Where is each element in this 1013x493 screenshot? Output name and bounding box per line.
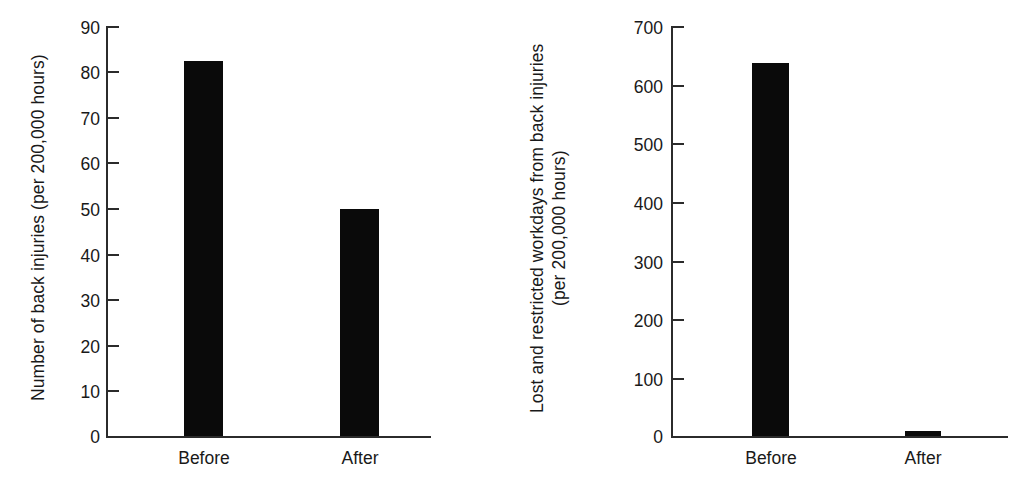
y-tick-600-right	[673, 85, 684, 87]
y-tick-60-left	[108, 162, 119, 164]
x-axis-line-right	[671, 436, 1008, 438]
y-tick-10-left	[108, 390, 119, 392]
bar-before-back-injuries	[184, 61, 223, 436]
y-tick-label-left-2: 70	[56, 109, 100, 130]
bar-after-back-injuries	[340, 209, 379, 436]
y-tick-80-left	[108, 71, 119, 73]
y-tick-50-left	[108, 208, 119, 210]
y-axis-line-left	[106, 26, 108, 438]
y-tick-label-right-6: 100	[606, 370, 663, 391]
x-tick-label-left-after: After	[342, 448, 379, 469]
y-tick-500-right	[673, 143, 684, 145]
y-tick-label-right-1: 600	[606, 77, 663, 98]
y-tick-700-right	[673, 26, 684, 28]
plot-area-right: 700 600 500 400 300 200 100 0 Before Aft…	[506, 0, 1013, 493]
y-tick-label-right-5: 200	[606, 311, 663, 332]
y-tick-label-left-4: 50	[56, 200, 100, 221]
y-tick-label-right-2: 500	[606, 135, 663, 156]
bar-before-lost-workdays	[752, 63, 789, 436]
y-tick-20-left	[108, 345, 119, 347]
bar-after-lost-workdays	[905, 431, 941, 436]
y-tick-label-right-3: 400	[606, 194, 663, 215]
y-tick-label-right-0: 700	[606, 18, 663, 39]
y-tick-400-right	[673, 202, 684, 204]
y-tick-label-left-7: 20	[56, 337, 100, 358]
x-tick-label-right-after: After	[905, 448, 942, 469]
y-tick-label-left-1: 80	[56, 63, 100, 84]
y-tick-label-left-3: 60	[56, 154, 100, 175]
y-tick-label-left-0: 90	[56, 18, 100, 39]
figure-two-bar-charts: Number of back injuries (per 200,000 hou…	[0, 0, 1013, 493]
y-tick-30-left	[108, 299, 119, 301]
chart-panel-lost-workdays: Lost and restricted workdays from back i…	[506, 0, 1013, 493]
y-tick-40-left	[108, 254, 119, 256]
y-tick-label-left-5: 40	[56, 246, 100, 267]
y-tick-label-left-9: 0	[56, 427, 100, 448]
chart-panel-back-injuries: Number of back injuries (per 200,000 hou…	[0, 0, 506, 493]
y-tick-200-right	[673, 319, 684, 321]
y-tick-90-left	[108, 26, 119, 28]
y-tick-100-right	[673, 378, 684, 380]
y-tick-70-left	[108, 117, 119, 119]
y-tick-label-left-8: 10	[56, 382, 100, 403]
plot-area-left: 90 80 70 60 50 40 30 20 10 0 Before Afte…	[0, 0, 506, 493]
y-tick-label-right-4: 300	[606, 253, 663, 274]
y-tick-300-right	[673, 261, 684, 263]
x-tick-label-right-before: Before	[745, 448, 797, 469]
y-tick-label-right-7: 0	[606, 427, 663, 448]
x-tick-label-left-before: Before	[178, 448, 230, 469]
x-axis-line-left	[106, 436, 431, 438]
y-axis-line-right	[671, 26, 673, 438]
y-tick-label-left-6: 30	[56, 291, 100, 312]
